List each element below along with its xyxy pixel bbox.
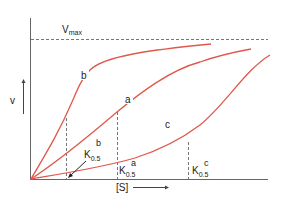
x-arrow-head [165, 186, 169, 190]
curve-a [31, 49, 251, 179]
k-a-sup: a [131, 158, 136, 168]
k-b-label: K0.5 [84, 149, 101, 162]
vmax-label: Vmax [62, 24, 82, 36]
curve-c-label: c [165, 119, 170, 130]
k-b-sup: b [96, 138, 101, 148]
y-arrow-head [22, 79, 26, 83]
curve-a-label: a [125, 94, 131, 105]
y-axis-label: v [10, 95, 15, 106]
k-c-sup: c [204, 158, 209, 168]
x-axis-label: [S] [116, 182, 128, 193]
k-b-arrow [70, 161, 86, 176]
curve-b [31, 44, 211, 179]
curve-b-label: b [81, 70, 87, 81]
michaelis-menten-chart: Vmax v [S] b a c b K0.5 a K0.5 c K0.5 [0, 0, 282, 204]
